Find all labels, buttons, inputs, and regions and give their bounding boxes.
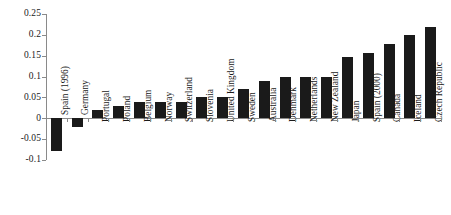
y-axis-tick-mark <box>42 160 46 161</box>
x-axis-tick-mark <box>379 118 380 122</box>
y-axis-tick: 0.05 <box>24 91 41 103</box>
y-axis-tick-mark <box>42 56 46 57</box>
x-axis-tick-mark <box>150 118 151 122</box>
x-axis-tick-mark <box>295 118 296 122</box>
x-axis-tick-mark <box>67 118 68 122</box>
x-axis-tick-mark <box>233 118 234 122</box>
y-axis-tick-label: -0.1 <box>26 155 41 165</box>
x-axis-tick-mark <box>108 118 109 122</box>
y-axis-tick: -0.05 <box>21 133 41 145</box>
x-axis-category-label: Belgium <box>144 90 153 122</box>
bar <box>72 118 83 126</box>
y-axis-tick-mark <box>42 139 46 140</box>
y-axis-tick-mark <box>42 97 46 98</box>
x-axis-tick-mark <box>420 118 421 122</box>
x-axis-tick-mark <box>316 118 317 122</box>
x-axis-tick-mark <box>254 118 255 122</box>
y-axis: 0.250.20.150.10.050-0.05-0.1 <box>0 0 46 215</box>
y-axis-tick-mark <box>42 35 46 36</box>
x-axis-category-label: Iceland <box>414 95 423 123</box>
x-axis-category-label: Czech Republic <box>435 62 444 122</box>
x-axis-tick-mark <box>399 118 400 122</box>
x-axis-category-label: Poland <box>123 96 132 122</box>
x-axis-category-label: Spain (1996) <box>61 66 70 115</box>
x-axis-tick-mark <box>171 118 172 122</box>
x-axis-category-label: Denmark <box>289 87 298 122</box>
x-axis-tick-mark <box>358 118 359 122</box>
x-axis-category-label: Norway <box>165 92 174 122</box>
y-axis-tick-mark <box>42 14 46 15</box>
x-axis-tick-mark <box>337 118 338 122</box>
x-axis-category-label: New Zealand <box>331 72 340 122</box>
x-axis-tick-mark <box>46 118 47 122</box>
x-axis-tick-mark <box>192 118 193 122</box>
y-axis-tick: 0.25 <box>24 8 41 20</box>
bar-chart: 0.250.20.150.10.050-0.05-0.1 Spain (1996… <box>0 0 451 215</box>
x-axis-category-label: Netherlands <box>310 77 319 122</box>
x-axis-category-label: Australia <box>269 88 278 123</box>
y-axis-tick: 0.1 <box>29 71 41 83</box>
y-axis-tick-label: 0.2 <box>29 30 41 40</box>
x-axis-category-label: Germany <box>81 80 90 115</box>
bar <box>51 118 62 151</box>
x-axis-category-label: Slovenia <box>206 89 215 122</box>
x-axis-tick-mark <box>441 118 442 122</box>
x-axis-tick-mark <box>212 118 213 122</box>
y-axis-tick-label: 0.1 <box>29 72 41 82</box>
x-axis-category-label: United Kingdom <box>227 59 236 122</box>
y-axis-tick-mark <box>42 77 46 78</box>
y-axis-tick: -0.1 <box>26 154 41 166</box>
y-axis-tick: 0.15 <box>24 50 41 62</box>
y-axis-tick-label: 0.05 <box>24 93 41 103</box>
y-axis-tick-label: 0.15 <box>24 51 41 61</box>
x-axis-category-label: Spain (2000) <box>373 73 382 122</box>
x-axis-category-label: Portugal <box>102 90 111 122</box>
y-axis-tick-label: 0 <box>36 114 41 124</box>
x-axis-tick-mark <box>88 118 89 122</box>
y-axis-tick: 0.2 <box>29 29 41 41</box>
x-axis-tick-mark <box>275 118 276 122</box>
y-axis-tick-label: -0.05 <box>21 134 41 144</box>
y-axis-tick: 0 <box>36 112 41 124</box>
x-axis-category-label: Switzerland <box>185 77 194 122</box>
x-axis-category-label: Sweden <box>248 93 257 123</box>
x-axis-category-label: Japan <box>352 101 361 122</box>
x-axis-category-label: Canada <box>393 94 402 122</box>
y-axis-tick-label: 0.25 <box>24 9 41 19</box>
x-axis-tick-mark <box>129 118 130 122</box>
